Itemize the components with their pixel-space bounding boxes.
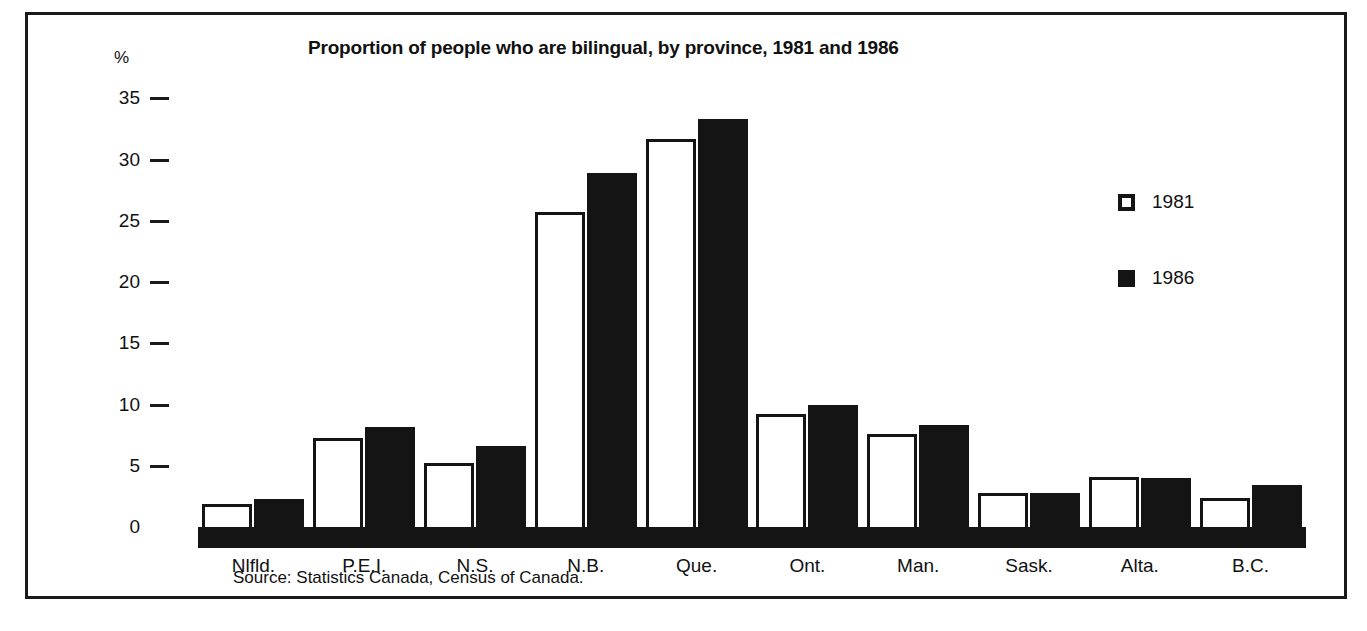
bar-1986 xyxy=(698,119,748,527)
bar-group xyxy=(420,15,531,527)
y-axis-tick-label: 15 xyxy=(119,333,140,353)
y-axis-tick: 30 xyxy=(28,150,188,170)
y-axis-tick-label: 20 xyxy=(119,272,140,292)
x-axis-label-man: Man. xyxy=(863,555,974,577)
legend-item-1986: 1986 xyxy=(1118,266,1288,290)
y-axis-tick: 20 xyxy=(28,272,188,292)
y-axis-tick-mark xyxy=(150,220,169,223)
x-axis-label-ont: Ont. xyxy=(752,555,863,577)
chart-figure-frame: Proportion of people who are bilingual, … xyxy=(25,12,1347,599)
y-axis-tick-label: 25 xyxy=(119,211,140,231)
bar-group xyxy=(530,15,641,527)
y-axis-tick: 10 xyxy=(28,395,188,415)
bar-1986 xyxy=(1141,478,1191,527)
y-axis-tick: 35 xyxy=(28,88,188,108)
bar-1986 xyxy=(919,425,969,527)
x-axis-label-bc: B.C. xyxy=(1195,555,1306,577)
y-axis-tick-mark xyxy=(150,465,169,468)
y-axis-tick-mark xyxy=(150,281,169,284)
legend-label: 1981 xyxy=(1152,191,1194,213)
bar-1981 xyxy=(756,414,806,527)
y-axis-tick: 0 xyxy=(28,517,188,537)
x-axis-label-alta: Alta. xyxy=(1084,555,1195,577)
bar-1981 xyxy=(1089,477,1139,527)
bar-group xyxy=(641,15,752,527)
legend-label: 1986 xyxy=(1152,267,1194,289)
y-axis-tick-label: 35 xyxy=(119,88,140,108)
bar-1981 xyxy=(646,139,696,527)
bar-1981 xyxy=(978,493,1028,527)
bar-1981 xyxy=(424,463,474,527)
bar-1986 xyxy=(808,405,858,528)
bar-1986 xyxy=(476,446,526,527)
bar-1986 xyxy=(1252,485,1302,527)
y-axis-tick-mark xyxy=(150,404,169,407)
y-axis-tick: 25 xyxy=(28,211,188,231)
x-axis-label-que: Que. xyxy=(641,555,752,577)
bar-group xyxy=(974,15,1085,527)
bar-1981 xyxy=(313,438,363,527)
y-axis-tick-mark xyxy=(150,342,169,345)
plot-area: Proportion of people who are bilingual, … xyxy=(28,15,1344,596)
legend-item-1981: 1981 xyxy=(1118,190,1288,214)
bar-1986 xyxy=(587,173,637,527)
x-axis-label-sask: Sask. xyxy=(974,555,1085,577)
y-axis-tick-mark xyxy=(150,97,169,100)
filled-square-icon xyxy=(1118,270,1135,287)
y-axis-tick-label: 30 xyxy=(119,150,140,170)
bar-group xyxy=(309,15,420,527)
bar-1981 xyxy=(535,212,585,527)
bar-1986 xyxy=(365,427,415,527)
bar-group xyxy=(863,15,974,527)
y-axis-tick-label: 0 xyxy=(129,517,140,537)
bar-1981 xyxy=(1200,498,1250,527)
y-axis-tick: 15 xyxy=(28,333,188,353)
y-axis: 05101520253035 xyxy=(28,15,188,596)
bar-1986 xyxy=(254,499,304,527)
bar-group xyxy=(752,15,863,527)
open-square-icon xyxy=(1118,194,1135,211)
y-axis-tick-label: 5 xyxy=(129,456,140,476)
bar-1986 xyxy=(1030,493,1080,527)
y-axis-tick-mark xyxy=(150,159,169,162)
bar-group xyxy=(198,15,309,527)
chart-legend: 19811986 xyxy=(1118,190,1288,342)
y-axis-tick-label: 10 xyxy=(119,395,140,415)
bar-1981 xyxy=(202,504,252,527)
bar-1981 xyxy=(867,434,917,527)
source-note: Source: Statistics Canada, Census of Can… xyxy=(233,568,584,588)
y-axis-tick: 5 xyxy=(28,456,188,476)
axis-baseline xyxy=(198,527,1306,548)
